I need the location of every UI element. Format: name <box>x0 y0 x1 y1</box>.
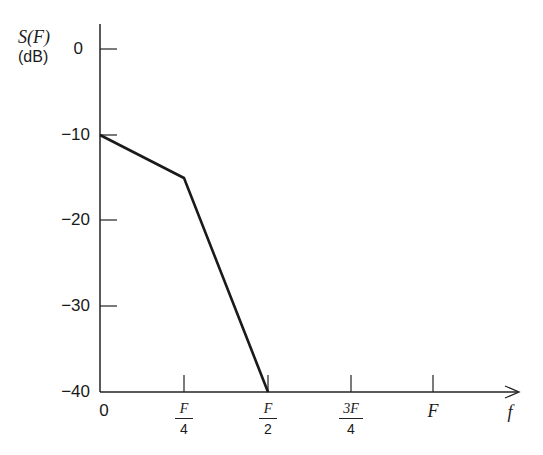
y-tick-label-30: −30 <box>30 296 90 316</box>
y-tick-label-10: −-1010 <box>30 125 90 145</box>
y-tick-label-40: −40 <box>30 382 90 402</box>
y-ticks <box>100 49 117 306</box>
x-ticks <box>184 375 433 392</box>
y-tick-label-0: 0 <box>23 39 83 59</box>
x-tick-label-0: 0 <box>84 401 124 421</box>
spectrum-line <box>100 135 268 392</box>
x-tick-label-f: F <box>413 401 453 422</box>
y-tick-label-20: −20 <box>30 210 90 230</box>
x-tick-label-f-2: F 2 <box>248 402 288 436</box>
x-axis-title: f <box>490 402 530 423</box>
x-tick-label-f-4: F 4 <box>164 402 204 436</box>
x-tick-label-3f-4: 3F 4 <box>331 402 371 436</box>
